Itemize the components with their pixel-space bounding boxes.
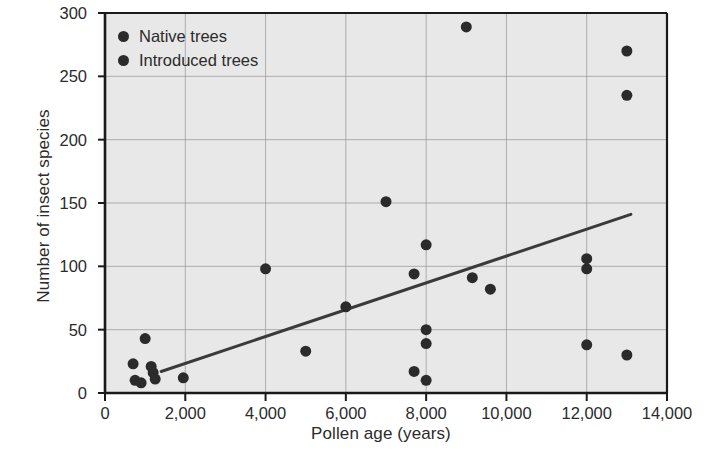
x-tick-label: 10,000 [481, 404, 531, 423]
data-point [409, 268, 420, 279]
x-tick-label: 14,000 [642, 404, 692, 423]
plot-canvas [0, 0, 706, 450]
x-tick-label: 0 [100, 404, 109, 423]
data-point [421, 239, 432, 250]
x-tick-label: 8,000 [405, 404, 446, 423]
data-point [421, 338, 432, 349]
x-tick-label: 6,000 [325, 404, 366, 423]
data-point [340, 301, 351, 312]
data-point [300, 346, 311, 357]
data-point [260, 263, 271, 274]
scatter-chart-figure: 05010015020025030002,0004,0006,0008,0001… [0, 0, 706, 450]
chart-legend: Native treesIntroduced trees [118, 25, 258, 72]
legend-item: Native trees [118, 25, 258, 48]
data-point [381, 196, 392, 207]
data-point [421, 324, 432, 335]
data-point [467, 272, 478, 283]
data-point [621, 350, 632, 361]
y-tick-label: 300 [30, 4, 87, 23]
y-tick-label: 0 [30, 384, 87, 403]
x-tick-label: 4,000 [245, 404, 286, 423]
legend-label: Native trees [139, 28, 227, 45]
data-point [581, 339, 592, 350]
legend-label: Introduced trees [139, 52, 258, 69]
data-point [140, 333, 151, 344]
x-axis-title: Pollen age (years) [0, 424, 706, 444]
data-point [150, 374, 161, 385]
data-point [485, 284, 496, 295]
data-point [178, 372, 189, 383]
data-point [461, 21, 472, 32]
y-axis-title: Number of insect species [34, 46, 54, 366]
legend-item: Introduced trees [118, 49, 258, 72]
data-point [421, 375, 432, 386]
x-tick-label: 2,000 [165, 404, 206, 423]
x-tick-label: 12,000 [561, 404, 611, 423]
data-point [128, 358, 139, 369]
data-point [409, 366, 420, 377]
legend-marker-circle-icon [118, 55, 129, 66]
data-point [581, 253, 592, 264]
data-point [621, 90, 632, 101]
data-point [136, 377, 147, 388]
data-point [621, 46, 632, 57]
data-point [581, 263, 592, 274]
legend-marker-circle-icon [118, 31, 129, 42]
